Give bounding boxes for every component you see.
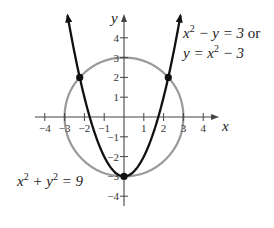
y-axis-arrow-icon (121, 14, 127, 22)
circle-equation-label: x2 + y2 = 9 (17, 169, 83, 189)
y-tick-label: −1 (107, 131, 119, 143)
x-tick-label: −3 (59, 122, 71, 134)
x-tick-label: 4 (200, 122, 206, 134)
y-tick-label: 4 (114, 32, 120, 44)
x-tick-label: 3 (181, 122, 187, 134)
x-axis-label: x (222, 118, 229, 135)
x-axis-arrow-icon (211, 114, 219, 120)
parabola-arrow-icon (176, 14, 183, 23)
intersection-point (165, 74, 172, 81)
parabola-equation-line1: x2 − y = 3 or (183, 21, 260, 41)
parabola-arrow-icon (65, 14, 72, 23)
y-tick-label: 2 (114, 71, 120, 83)
y-axis-label: y (111, 10, 118, 27)
y-tick-label: 1 (114, 91, 120, 103)
intersection-point (76, 74, 83, 81)
y-tick-label: −4 (107, 190, 119, 202)
x-tick-label: −2 (79, 122, 91, 134)
y-tick-label: 3 (114, 52, 120, 64)
x-tick-label: 2 (161, 122, 167, 134)
x-tick-label: 1 (141, 122, 147, 134)
intersection-point (120, 173, 127, 180)
y-tick-label: −2 (107, 151, 119, 163)
x-tick-label: −4 (39, 122, 51, 134)
parabola-equation-label: x2 − y = 3 or y = x2 − 3 (183, 21, 260, 61)
parabola-equation-line2: y = x2 − 3 (183, 41, 260, 61)
